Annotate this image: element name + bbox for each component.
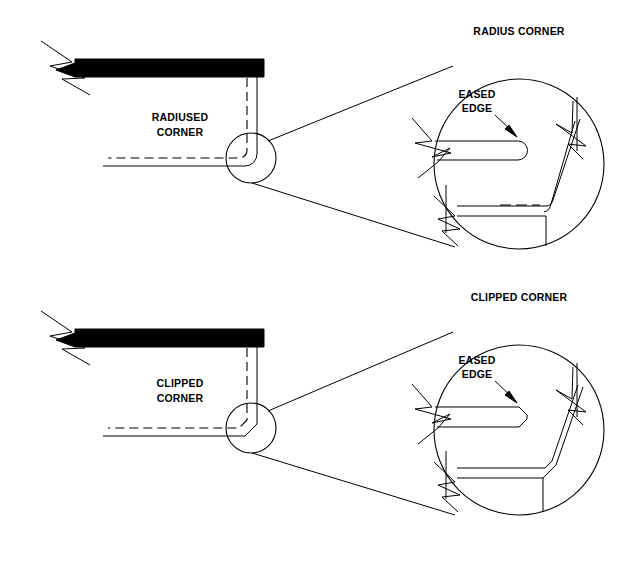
- clipped-eased-edge-label-line2: EDGE: [462, 368, 493, 380]
- clipped-lower-slab-chamfer-bottom: [543, 465, 556, 478]
- drawing-sheet: RADIUS CORNER RADIUSED CORNER EASED EDGE: [0, 0, 639, 576]
- radius-corner-outer-profile: [103, 154, 257, 166]
- clipped-corner-outer-profile: [103, 424, 257, 436]
- radius-plan-label-line1: RADIUSED: [152, 111, 209, 123]
- radius-enlarged-detail: [412, 79, 604, 249]
- radius-detail-leader: [252, 66, 455, 247]
- clipped-eased-edge-profile: [435, 407, 527, 427]
- clipped-enlarged-detail: [412, 345, 604, 515]
- clipped-detail-title: CLIPPED CORNER: [471, 291, 568, 303]
- radius-return-edge-outer: [548, 119, 580, 206]
- radius-eased-edge-arrow: [495, 115, 517, 137]
- clipped-break-line-slab: [434, 451, 460, 512]
- radius-eased-edge-label-line1: EASED: [458, 88, 495, 100]
- radius-break-line-slab: [434, 185, 460, 246]
- technical-drawing-canvas: RADIUS CORNER RADIUSED CORNER EASED EDGE: [0, 0, 639, 576]
- radius-detail-circle: [434, 79, 604, 249]
- clipped-plan-label-line1: CLIPPED: [157, 377, 204, 389]
- clipped-plan-label-line2: CORNER: [157, 392, 204, 404]
- clipped-return-edge-inner: [556, 387, 583, 465]
- clipped-detail-circle: [434, 345, 604, 515]
- clipped-detail-leader: [252, 332, 455, 515]
- radius-eased-edge-profile: [435, 141, 528, 160]
- radius-slab-solid: [56, 59, 264, 77]
- clipped-slab-solid: [56, 329, 264, 347]
- clipped-eased-edge-arrow: [495, 381, 517, 403]
- clipped-eased-edge-label-line1: EASED: [458, 354, 495, 366]
- radius-eased-edge-label-line2: EDGE: [462, 102, 493, 114]
- radius-detail-title: RADIUS CORNER: [473, 25, 564, 37]
- radius-break-line-rail: [412, 118, 451, 178]
- radius-plan-label-line2: CORNER: [157, 126, 204, 138]
- clipped-lower-slab-chamfer-top: [545, 461, 552, 468]
- clipped-break-line-rail: [412, 384, 451, 444]
